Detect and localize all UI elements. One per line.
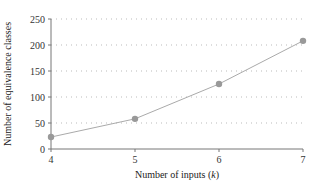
data-point-marker <box>132 116 138 122</box>
data-point-marker <box>216 81 222 87</box>
y-tick-label: 0 <box>40 144 45 155</box>
x-axis-ticks: 4567 <box>49 149 306 165</box>
y-tick-label: 150 <box>30 66 45 77</box>
y-tick-label: 200 <box>30 40 45 51</box>
data-point-marker <box>48 134 54 140</box>
line-chart: 050100150200250 4567 Number of equivalen… <box>0 0 320 190</box>
data-points <box>48 38 306 141</box>
grid-lines <box>51 19 303 123</box>
y-tick-label: 250 <box>30 14 45 25</box>
x-tick-label: 5 <box>133 154 138 165</box>
data-point-marker <box>300 38 306 44</box>
x-tick-label: 6 <box>217 154 222 165</box>
x-tick-label: 4 <box>49 154 54 165</box>
x-axis-label: Number of inputs (k) <box>135 169 219 181</box>
y-axis-label: Number of equivalence classes <box>2 22 13 146</box>
y-tick-label: 100 <box>30 92 45 103</box>
y-tick-label: 50 <box>35 118 45 129</box>
x-tick-label: 7 <box>301 154 306 165</box>
y-axis-ticks: 050100150200250 <box>30 14 51 155</box>
